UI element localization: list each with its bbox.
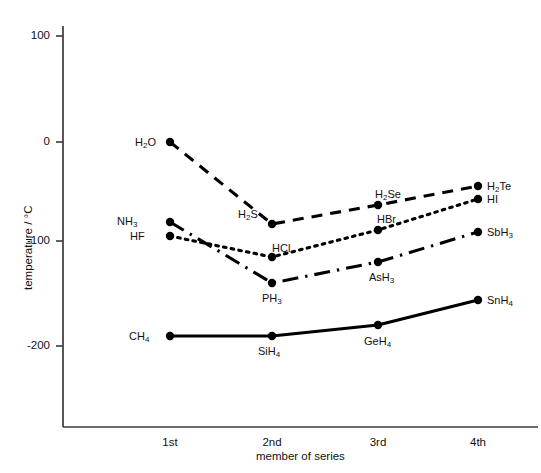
point-label-sih4-text: SiH	[258, 345, 276, 357]
point-label-sih4: SiH4	[258, 346, 280, 360]
marker-ch4	[166, 332, 174, 340]
point-label-h2o-text: H	[135, 136, 143, 148]
x-tick-label-1st: 1st	[140, 437, 200, 449]
x-tick-label-2nd: 2nd	[242, 437, 302, 449]
plot-canvas	[0, 0, 541, 473]
point-label-sbh3-text: SbH	[487, 226, 508, 238]
marker-h2s	[268, 220, 276, 228]
x-axis-title: member of series	[256, 450, 345, 462]
point-label-hi: HI	[487, 194, 498, 205]
point-label-h2s-text: H	[238, 208, 246, 220]
point-label-h2se-element: Se	[387, 188, 400, 200]
point-label-geh4-subscript: 4	[387, 340, 391, 349]
marker-ash3	[374, 258, 382, 266]
marker-sbh3	[474, 228, 482, 236]
point-label-hcl: HCl	[272, 243, 290, 254]
y-axis-ticks	[56, 36, 63, 346]
y-tick-label-minus200: -200	[6, 340, 50, 352]
series-line-group16	[170, 142, 478, 224]
series-line-group15	[170, 222, 478, 283]
series-line-group14	[170, 300, 478, 336]
point-label-h2te-text: H	[487, 180, 495, 192]
point-label-h2te-element: Te	[499, 180, 511, 192]
point-label-hbr: HBr	[377, 214, 396, 225]
point-label-snh4: SnH4	[487, 295, 513, 309]
point-label-ch4: CH4	[129, 331, 149, 345]
point-label-ph3-text: PH	[262, 292, 277, 304]
series-line-group17	[170, 199, 478, 257]
point-label-sih4-subscript: 4	[276, 350, 280, 359]
point-label-ph3-subscript: 3	[277, 297, 281, 306]
point-label-nh3-subscript: 3	[133, 220, 137, 229]
marker-ph3	[268, 279, 276, 287]
point-label-h2o-element: O	[147, 136, 156, 148]
y-tick-label-0: 0	[6, 136, 50, 148]
point-label-nh3-text: NH	[117, 215, 133, 227]
point-label-h2s-element: S	[250, 208, 257, 220]
point-label-ash3-text: AsH	[369, 271, 390, 283]
marker-hi	[474, 195, 482, 203]
point-label-ch4-text: CH	[129, 330, 145, 342]
point-label-ash3: AsH3	[369, 272, 394, 286]
point-label-ch4-subscript: 4	[145, 335, 149, 344]
point-label-h2o: H2O	[135, 137, 156, 151]
x-tick-label-4th: 4th	[448, 437, 508, 449]
point-label-snh4-subscript: 4	[508, 299, 512, 308]
point-label-h2s: H2S	[238, 209, 258, 223]
point-label-sbh3: SbH3	[487, 227, 513, 241]
point-label-nh3: NH3	[117, 216, 137, 230]
x-tick-label-3rd: 3rd	[348, 437, 408, 449]
point-label-geh4: GeH4	[364, 336, 391, 350]
marker-geh4	[374, 321, 382, 329]
marker-sih4	[268, 332, 276, 340]
point-label-ash3-subscript: 3	[390, 276, 394, 285]
point-label-ph3: PH3	[262, 293, 282, 307]
marker-h2o	[166, 138, 174, 146]
marker-h2te	[474, 182, 482, 190]
point-label-sbh3-subscript: 3	[508, 231, 512, 240]
marker-nh3	[166, 218, 174, 226]
y-axis-title: temperature / °C	[22, 206, 34, 291]
point-label-h2se: H2Se	[375, 189, 401, 203]
point-label-snh4-text: SnH	[487, 294, 508, 306]
y-tick-label-100: 100	[6, 30, 50, 42]
marker-snh4	[474, 296, 482, 304]
marker-hbr	[374, 226, 382, 234]
marker-hf	[166, 232, 174, 240]
hydride-boiling-point-chart: 100 0 -100 -200 temperature / °C 1st 2nd…	[0, 0, 541, 473]
point-label-geh4-text: GeH	[364, 335, 387, 347]
point-label-h2se-text: H	[375, 188, 383, 200]
marker-hcl	[268, 253, 276, 261]
point-label-hf: HF	[130, 231, 145, 242]
